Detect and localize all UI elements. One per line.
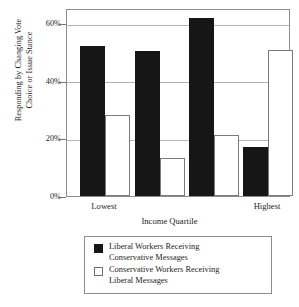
bar-q1-conservative-workers	[105, 115, 130, 196]
legend-label-conservative-line-1: Conservative Workers Receiving	[109, 265, 219, 276]
bar-q3-liberal-workers	[189, 18, 214, 196]
legend-label-conservative-line-2: Liberal Messages	[109, 276, 219, 287]
bar-q2-liberal-workers	[135, 51, 160, 196]
y-tick-label-20: 20%	[21, 135, 61, 143]
x-tick-label-highest: Highest	[227, 201, 299, 211]
legend-swatch-dark-icon	[94, 244, 103, 253]
plot-inner	[67, 10, 289, 196]
bar-q4-liberal-workers	[243, 147, 268, 196]
y-tick-mark-60	[59, 24, 66, 25]
y-tick-label-40: 40%	[21, 77, 61, 85]
legend-label-conservative-workers: Conservative Workers Receiving Liberal M…	[109, 265, 219, 286]
y-tick-mark-40	[59, 82, 66, 83]
bar-q2-conservative-workers	[160, 158, 185, 196]
legend-label-liberal-line-1: Liberal Workers Receiving	[109, 242, 199, 253]
bar-q1-liberal-workers	[80, 46, 105, 196]
bar-q3-conservative-workers	[214, 135, 239, 196]
y-tick-label-0: 0%	[21, 193, 61, 201]
legend-label-liberal-workers: Liberal Workers Receiving Conservative M…	[109, 242, 199, 263]
y-tick-label-60: 60%	[21, 20, 61, 28]
x-tick-label-lowest: Lowest	[64, 201, 144, 211]
y-tick-mark-20	[59, 139, 66, 140]
bar-q4-conservative-workers	[268, 50, 293, 196]
chart-legend: Liberal Workers Receiving Conservative M…	[84, 236, 272, 294]
x-axis-title: Income Quartile	[0, 216, 299, 226]
legend-item-conservative-workers: Conservative Workers Receiving Liberal M…	[94, 265, 271, 286]
legend-swatch-light-icon	[94, 267, 103, 276]
y-tick-mark-0	[59, 197, 66, 198]
legend-label-liberal-line-2: Conservative Messages	[109, 253, 199, 264]
bar-chart-figure: Responding by Changing Vote Choice or Is…	[0, 0, 299, 307]
legend-item-liberal-workers: Liberal Workers Receiving Conservative M…	[94, 242, 271, 263]
plot-area	[66, 9, 290, 197]
gridline-60	[67, 25, 289, 26]
